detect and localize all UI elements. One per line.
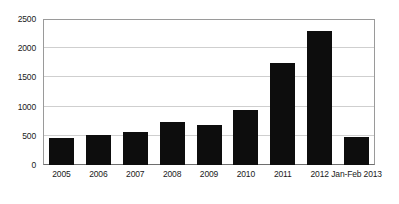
bar bbox=[160, 122, 185, 165]
x-axis-tick-label: 2006 bbox=[89, 170, 107, 179]
bar bbox=[197, 125, 222, 165]
y-axis-tick-label: 1500 bbox=[18, 73, 36, 82]
x-axis: 20052006200720082009201020112012Jan-Feb … bbox=[43, 168, 375, 188]
x-axis-tick-label: Jan-Feb 2013 bbox=[331, 170, 382, 179]
bar bbox=[86, 135, 111, 165]
x-axis-tick-label: 2010 bbox=[237, 170, 255, 179]
x-axis-tick-label: 2008 bbox=[163, 170, 181, 179]
y-axis-tick-label: 2500 bbox=[18, 15, 36, 24]
bar bbox=[123, 132, 148, 165]
y-axis: 05001000150020002500 bbox=[0, 0, 40, 204]
bar bbox=[49, 138, 74, 165]
bar-chart: 05001000150020002500 2005200620072008200… bbox=[0, 0, 399, 204]
y-axis-tick-label: 500 bbox=[22, 132, 36, 141]
x-axis-tick-label: 2009 bbox=[200, 170, 218, 179]
bar bbox=[344, 137, 369, 165]
bar bbox=[233, 110, 258, 165]
x-axis-tick-label: 2011 bbox=[274, 170, 292, 179]
x-axis-tick-label: 2005 bbox=[52, 170, 70, 179]
y-axis-tick-label: 1000 bbox=[18, 102, 36, 111]
x-axis-tick-label: 2007 bbox=[126, 170, 144, 179]
y-axis-tick-label: 2000 bbox=[18, 44, 36, 53]
bar bbox=[270, 63, 295, 165]
x-axis-tick-label: 2012 bbox=[311, 170, 329, 179]
bar bbox=[307, 31, 332, 165]
y-axis-tick-label: 0 bbox=[31, 161, 36, 170]
bars-layer bbox=[43, 19, 375, 165]
